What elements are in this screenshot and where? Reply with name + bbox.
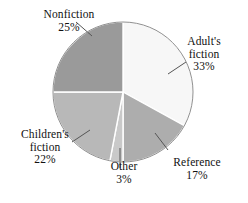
slice-label-reference: Reference 17% [152,156,242,181]
slice-label-adults-fiction-text2: fiction [189,48,220,60]
slice-label-childrens-fiction-text2: fiction [30,141,61,153]
slice-label-adults-fiction: Adult's fiction 33% [168,35,240,73]
slice-label-adults-fiction-value: 33% [168,60,240,73]
slice-label-nonfiction-text: Nonfiction [44,8,95,20]
slice-label-childrens-fiction-value: 22% [2,153,88,166]
slice-label-nonfiction: Nonfiction 25% [26,8,112,33]
slice-label-nonfiction-value: 25% [26,21,112,34]
slice-label-other: Other 3% [96,160,152,185]
slice-label-other-value: 3% [96,173,152,186]
slice-label-childrens-fiction: Children's fiction 22% [2,128,88,166]
pie-chart: Nonfiction 25% Adult's fiction 33% Child… [0,0,248,203]
slice-label-adults-fiction-text1: Adult's [187,35,220,47]
slice-label-other-text: Other [111,160,138,172]
slice-label-reference-text: Reference [173,156,221,168]
slice-label-reference-value: 17% [152,169,242,182]
slice-label-childrens-fiction-text1: Children's [21,128,69,140]
